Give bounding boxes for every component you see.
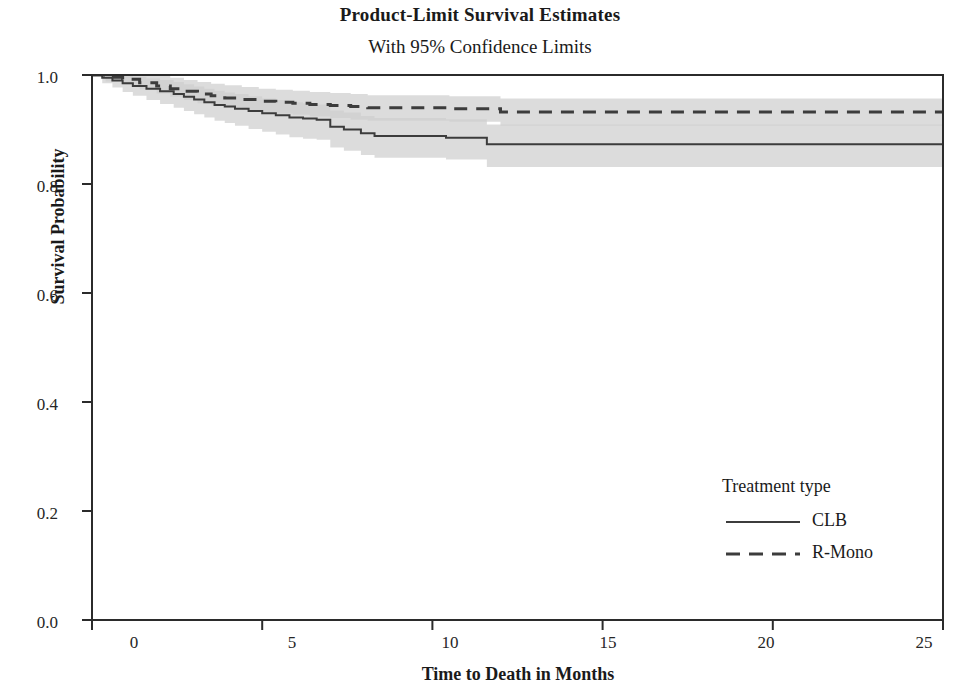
x-tick-15: 15 — [586, 633, 630, 653]
chart-page: Product-Limit Survival Estimates With 95… — [0, 0, 960, 698]
legend-title: Treatment type — [722, 476, 831, 497]
y-tick-0.6: 0.6 — [14, 286, 58, 306]
y-tick-0.0: 0.0 — [14, 613, 58, 633]
y-tick-0.4: 0.4 — [14, 395, 58, 415]
survival-plot — [0, 0, 960, 698]
x-tick-0: 0 — [112, 633, 156, 653]
y-tick-1.0: 1.0 — [14, 68, 58, 88]
x-tick-5: 5 — [270, 633, 314, 653]
x-axis-label: Time to Death in Months — [92, 664, 944, 685]
legend-label-rmono: R-Mono — [812, 542, 873, 563]
x-tick-10: 10 — [428, 633, 472, 653]
y-axis-label: Survival Probability — [48, 97, 69, 357]
confidence-bands — [92, 75, 943, 167]
y-tick-0.2: 0.2 — [14, 504, 58, 524]
y-tick-0.8: 0.8 — [14, 177, 58, 197]
legend-label-clb: CLB — [812, 510, 847, 531]
x-tick-20: 20 — [744, 633, 788, 653]
x-tick-25: 25 — [902, 633, 946, 653]
